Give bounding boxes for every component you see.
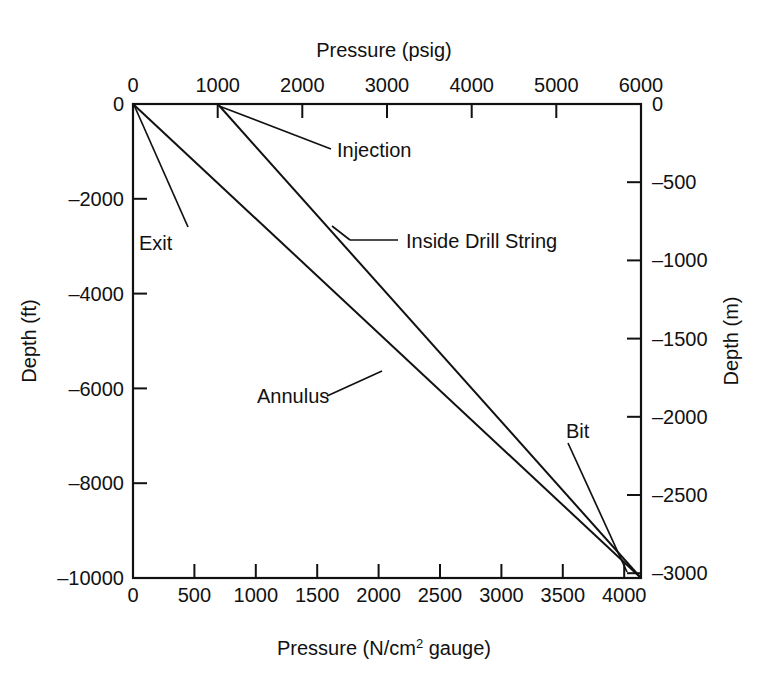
left-tick-label-5: –10000 — [57, 567, 124, 589]
leader-line-exit — [134, 105, 188, 227]
bottom-axis-title-superscript: 2 — [416, 636, 423, 651]
annotation-label-bit: Bit — [566, 420, 590, 442]
top-tick-label-0: 0 — [127, 74, 138, 96]
left-axis-tick-labels: 0 –2000 –4000 –6000 –8000 –10000 — [57, 93, 124, 589]
leader-line-annulus — [327, 371, 382, 396]
right-tick-label-2: –1000 — [652, 249, 708, 271]
bottom-tick-label-8: 4000 — [602, 584, 647, 606]
annotation-label-annulus: Annulus — [257, 385, 329, 407]
top-tick-label-5: 5000 — [534, 74, 579, 96]
bottom-tick-label-3: 1500 — [295, 584, 340, 606]
bottom-axis-title-prefix: Pressure (N/cm — [277, 637, 416, 659]
bottom-axis-title-suffix: gauge) — [423, 637, 491, 659]
bottom-axis-tick-labels: 0 500 1000 1500 2000 2500 3000 3500 4000 — [127, 584, 646, 606]
leader-line-inside-drill-string-hook — [332, 226, 350, 240]
bottom-axis-ticks — [133, 564, 624, 578]
bottom-tick-label-7: 3500 — [541, 584, 586, 606]
right-tick-label-1: –500 — [652, 171, 697, 193]
bottom-tick-label-5: 2500 — [418, 584, 463, 606]
top-axis-ticks — [133, 104, 641, 118]
top-axis-title: Pressure (psig) — [316, 39, 452, 61]
left-tick-label-1: –2000 — [68, 188, 124, 210]
right-tick-label-5: –2500 — [652, 484, 708, 506]
bottom-tick-label-4: 2000 — [356, 584, 401, 606]
series-line-annulus — [133, 104, 641, 578]
top-tick-label-4: 4000 — [449, 74, 494, 96]
right-axis-ticks — [627, 104, 641, 573]
right-tick-label-6: –3000 — [652, 562, 708, 584]
bottom-tick-label-1: 500 — [178, 584, 211, 606]
annotation-label-inside-drill-string: Inside Drill String — [406, 230, 557, 252]
left-tick-label-0: 0 — [113, 93, 124, 115]
right-axis-title: Depth (m) — [720, 297, 742, 386]
left-tick-label-3: –6000 — [68, 378, 124, 400]
chart-figure: Pressure (psig) Pressure (N/cm2 gauge) D… — [0, 0, 768, 676]
top-axis-tick-labels: 0 1000 2000 3000 4000 5000 6000 — [127, 74, 663, 96]
series-line-inside-drill-string — [218, 104, 641, 578]
right-tick-label-4: –2000 — [652, 406, 708, 428]
left-axis-ticks — [133, 104, 147, 578]
bottom-tick-label-0: 0 — [127, 584, 138, 606]
annotation-label-injection: Injection — [337, 139, 412, 161]
left-tick-label-4: –8000 — [68, 472, 124, 494]
pressure-depth-chart: Pressure (psig) Pressure (N/cm2 gauge) D… — [0, 0, 768, 676]
left-axis-title: Depth (ft) — [18, 299, 40, 382]
top-tick-label-3: 3000 — [365, 74, 410, 96]
right-axis-tick-labels: 0 –500 –1000 –1500 –2000 –2500 –3000 — [652, 93, 708, 584]
bottom-axis-title: Pressure (N/cm2 gauge) — [277, 636, 491, 659]
annotation-label-exit: Exit — [139, 232, 173, 254]
right-tick-label-3: –1500 — [652, 328, 708, 350]
bottom-tick-label-6: 3000 — [479, 584, 524, 606]
top-tick-label-2: 2000 — [280, 74, 325, 96]
top-tick-label-1: 1000 — [195, 74, 240, 96]
leader-line-injection — [219, 106, 331, 149]
bottom-tick-label-2: 1000 — [234, 584, 279, 606]
left-tick-label-2: –4000 — [68, 283, 124, 305]
right-tick-label-0: 0 — [652, 93, 663, 115]
